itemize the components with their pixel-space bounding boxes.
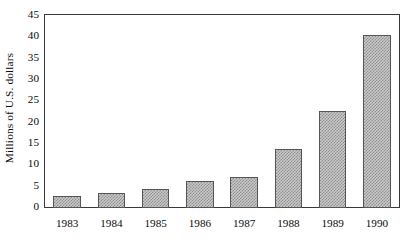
y-axis-title-text: Millions of U.S. dollars bbox=[3, 52, 15, 162]
bar bbox=[53, 196, 80, 208]
bar bbox=[230, 177, 257, 208]
x-tick-label: 1989 bbox=[321, 218, 343, 229]
x-tick-label: 1983 bbox=[56, 218, 78, 229]
bar bbox=[363, 35, 390, 208]
x-tick-label: 1986 bbox=[189, 218, 211, 229]
y-axis-tick-labels: 051015202530354045 bbox=[17, 0, 39, 243]
bar bbox=[186, 181, 213, 208]
y-tick-label: 45 bbox=[17, 9, 39, 20]
x-axis-tick-labels: 19831984198519861987198819891990 bbox=[45, 218, 399, 238]
bar bbox=[275, 149, 302, 208]
x-tick-label: 1987 bbox=[233, 218, 255, 229]
bars-layer bbox=[45, 15, 399, 208]
y-tick-label: 15 bbox=[17, 137, 39, 148]
y-tick-label: 25 bbox=[17, 95, 39, 106]
x-tick-label: 1985 bbox=[144, 218, 166, 229]
bar bbox=[142, 189, 169, 208]
y-tick-label: 0 bbox=[17, 201, 39, 212]
y-tick-label: 30 bbox=[17, 73, 39, 84]
y-tick-label: 10 bbox=[17, 159, 39, 170]
bar bbox=[98, 193, 125, 208]
y-tick-label: 20 bbox=[17, 116, 39, 127]
bar-chart: Millions of U.S. dollars 051015202530354… bbox=[0, 0, 414, 243]
x-tick-label: 1990 bbox=[366, 218, 388, 229]
y-tick-label: 35 bbox=[17, 52, 39, 63]
bar bbox=[319, 111, 346, 208]
x-tick-label: 1988 bbox=[277, 218, 299, 229]
y-axis-title: Millions of U.S. dollars bbox=[0, 0, 18, 215]
y-tick-label: 40 bbox=[17, 31, 39, 42]
x-tick-label: 1984 bbox=[100, 218, 122, 229]
y-tick-label: 5 bbox=[17, 180, 39, 191]
